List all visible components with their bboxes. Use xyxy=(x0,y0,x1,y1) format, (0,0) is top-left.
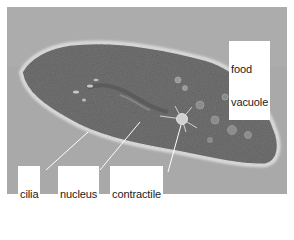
label-line: contractile xyxy=(112,189,161,200)
label-cilia: cilia xyxy=(18,166,40,202)
label-line: vacuole xyxy=(231,97,268,108)
label-line: cilia xyxy=(20,189,38,200)
label-contractile-vacuole: contractile vacuole xyxy=(110,166,163,202)
label-line: food xyxy=(231,64,268,75)
label-nucleus: nucleus xyxy=(58,166,99,202)
label-food-vacuole: food vacuole xyxy=(229,41,270,120)
label-line: nucleus xyxy=(60,189,97,200)
